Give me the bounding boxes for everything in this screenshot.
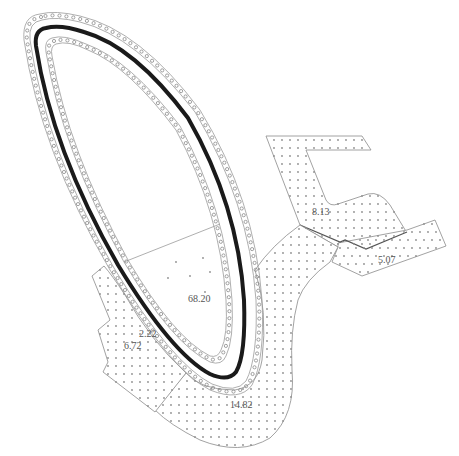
label-right-lower: 5.07: [378, 254, 396, 265]
region-bottom-arc[interactable]: [155, 225, 338, 448]
label-central: 68.20: [188, 293, 211, 304]
label-bottom-arc: 14.82: [230, 399, 253, 410]
label-right-upper: 8.13: [312, 206, 330, 217]
region-right-upper[interactable]: [266, 136, 407, 248]
label-left-lower: 6.72: [124, 340, 142, 351]
label-left-upper: 2.22: [139, 328, 157, 339]
central-plot-line: [124, 224, 220, 262]
site-plan-canvas: 68.20 2.22 6.72 14.82 8.13 5.07: [0, 0, 459, 456]
